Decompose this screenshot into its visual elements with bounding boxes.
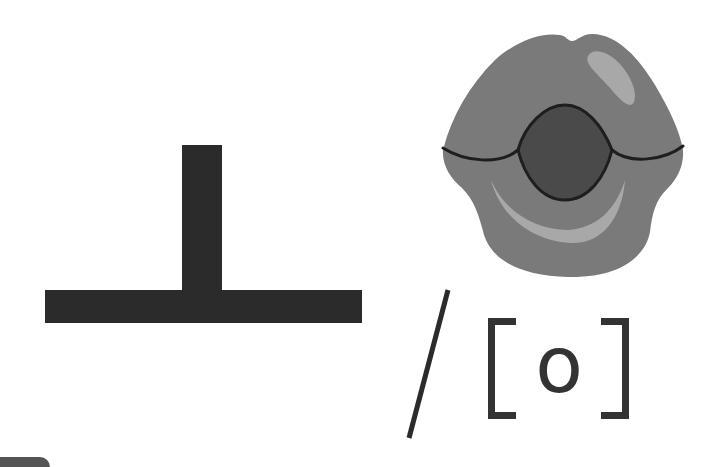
ipa-symbol: o bbox=[524, 318, 594, 418]
phonics-card: o bbox=[0, 0, 716, 467]
bottom-tab bbox=[0, 457, 50, 467]
ipa-open-bracket bbox=[488, 318, 516, 419]
separator-slash bbox=[409, 290, 448, 438]
ipa-close-bracket bbox=[601, 318, 629, 419]
